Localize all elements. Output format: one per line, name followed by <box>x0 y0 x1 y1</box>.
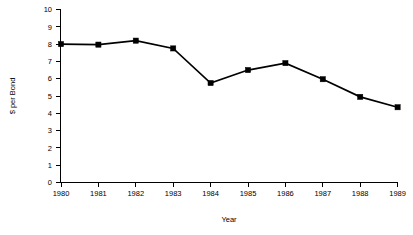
series-markers <box>58 38 400 110</box>
y-tick-marks <box>56 10 61 183</box>
series-line-dollars-per-bond <box>61 41 398 108</box>
line-chart: 10 9 8 7 6 5 4 3 2 1 0 1980 <box>0 0 413 235</box>
y-tick-label: 8 <box>48 40 52 49</box>
y-tick-label: 5 <box>48 92 52 101</box>
x-tick-label: 1989 <box>389 189 406 198</box>
y-tick-label: 2 <box>48 144 52 153</box>
x-tick-marks <box>61 183 398 188</box>
data-point-marker <box>208 80 213 85</box>
data-point-marker <box>358 94 363 99</box>
x-tick-label: 1980 <box>53 189 70 198</box>
y-tick-label: 0 <box>48 178 52 187</box>
y-tick-label: 9 <box>48 23 52 32</box>
x-tick-label: 1981 <box>90 189 107 198</box>
data-point-marker <box>245 67 250 72</box>
y-tick-label: 6 <box>48 74 52 83</box>
data-point-marker <box>171 46 176 51</box>
y-tick-label: 1 <box>48 161 52 170</box>
data-point-marker <box>395 105 400 110</box>
x-tick-label: 1984 <box>202 189 219 198</box>
y-tick-label: 3 <box>48 126 52 135</box>
x-tick-label: 1985 <box>240 189 257 198</box>
x-tick-label: 1988 <box>352 189 369 198</box>
x-tick-labels: 1980 1981 1982 1983 1984 1985 1986 1987 … <box>53 189 406 198</box>
data-point-marker <box>58 42 63 47</box>
x-axis-title: Year <box>221 215 237 224</box>
y-axis-title: $ per Bond <box>8 78 17 115</box>
data-point-marker <box>133 38 138 43</box>
y-tick-label: 10 <box>44 5 52 14</box>
x-tick-label: 1986 <box>277 189 294 198</box>
x-tick-label: 1982 <box>127 189 144 198</box>
x-tick-label: 1987 <box>314 189 331 198</box>
data-point-marker <box>96 42 101 47</box>
y-tick-label: 4 <box>48 109 52 118</box>
data-point-marker <box>320 77 325 82</box>
y-tick-labels: 10 9 8 7 6 5 4 3 2 1 0 <box>44 5 52 187</box>
chart-canvas: 10 9 8 7 6 5 4 3 2 1 0 1980 <box>0 0 413 235</box>
y-tick-label: 7 <box>48 57 52 66</box>
data-point-marker <box>283 61 288 66</box>
x-tick-label: 1983 <box>165 189 182 198</box>
